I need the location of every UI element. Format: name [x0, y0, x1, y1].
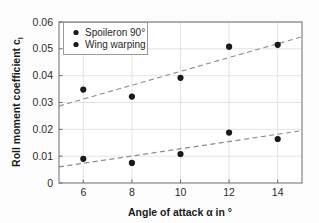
data-point [275, 136, 281, 142]
y-axis-title: Roll moment coefficient cl [10, 37, 25, 167]
y-tick-label: 0 [47, 177, 53, 189]
data-point [177, 75, 183, 81]
x-tick-label: 6 [80, 186, 86, 198]
data-point [177, 151, 183, 157]
y-tick-label: 0.01 [33, 150, 54, 162]
x-tick-label: 14 [272, 186, 284, 198]
y-tick-label: 0.02 [33, 123, 54, 135]
data-point [80, 87, 86, 93]
y-tick-labels: 00.010.020.030.040.050.06 [33, 16, 54, 189]
x-tick-label: 8 [129, 186, 135, 198]
chart-figure: 68101214 00.010.020.030.040.050.06 Angle… [0, 0, 319, 223]
legend-marker-icon-spoileron [73, 30, 78, 35]
roll-moment-coefficient-scatter-chart: 68101214 00.010.020.030.040.050.06 Angle… [0, 0, 319, 223]
legend-marker-icon-wing-warping [73, 42, 78, 47]
y-tick-label: 0.04 [33, 69, 54, 81]
x-tick-label: 10 [175, 186, 187, 198]
data-point [226, 129, 232, 135]
x-tick-labels: 68101214 [80, 186, 283, 198]
x-axis-title: Angle of attack α in ° [128, 206, 232, 218]
chart-legend[interactable]: Spoileron 90° Wing warping [64, 23, 148, 55]
x-tick-label: 12 [223, 186, 235, 198]
data-point [80, 156, 86, 162]
legend-label-wing-warping: Wing warping [85, 39, 146, 50]
y-tick-label: 0.03 [33, 96, 54, 108]
data-point [226, 44, 232, 50]
y-tick-label: 0.05 [33, 42, 54, 54]
legend-label-spoileron: Spoileron 90° [85, 27, 145, 38]
data-point [129, 93, 135, 99]
y-tick-label: 0.06 [33, 16, 54, 28]
data-point [129, 160, 135, 166]
data-point [275, 42, 281, 48]
